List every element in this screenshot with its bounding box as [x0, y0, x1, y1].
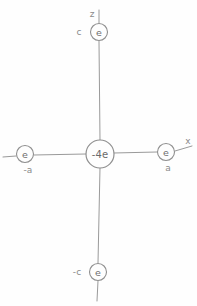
charge-left-position-label: -a [23, 165, 32, 175]
charge-top-position-label: c [76, 27, 81, 37]
diagram-canvas: x z -4e e c e -c e -a e a [0, 0, 197, 306]
charge-bottom-label: e [95, 267, 101, 278]
charge-configuration-diagram: x z -4e e c e -c e -a e a [0, 0, 197, 306]
charge-right: e a [158, 144, 175, 173]
x-axis-label: x [185, 136, 191, 146]
charge-right-position-label: a [165, 163, 171, 173]
charge-bottom-position-label: -c [73, 267, 82, 277]
x-axis-segment-far-left [3, 156, 16, 157]
z-axis-label: z [90, 9, 95, 19]
x-axis-segment-left [34, 154, 86, 155]
z-axis-segment-upper [99, 41, 100, 140]
charge-center: -4e [86, 140, 114, 168]
charge-center-label: -4e [92, 149, 109, 160]
charge-bottom: e -c [73, 264, 107, 281]
charge-right-label: e [163, 147, 169, 158]
charge-left-label: e [22, 149, 28, 160]
x-axis-segment-far-right [175, 146, 192, 151]
charge-top-label: e [96, 27, 102, 38]
z-axis-segment-bottom [97, 281, 98, 301]
charge-left: e -a [17, 146, 34, 175]
charge-top: e c [76, 24, 107, 41]
x-axis-segment-right [114, 152, 157, 153]
z-axis-segment-lower [98, 168, 100, 263]
